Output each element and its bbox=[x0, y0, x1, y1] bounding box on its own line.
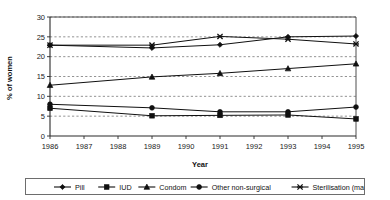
legend-items-svg: PillIUDCondomOther non-surgicalSterilisa… bbox=[26, 179, 364, 194]
legend-marker-other-non-surgical bbox=[197, 185, 202, 190]
x-tick-label-1986: 1986 bbox=[42, 142, 59, 151]
series-marker-other-non-surgical-1991 bbox=[218, 109, 223, 114]
series-line-pill bbox=[50, 36, 356, 48]
y-tick-label-0: 0 bbox=[41, 132, 45, 141]
legend-item-other-non-surgical[interactable]: Other non-surgical bbox=[191, 183, 272, 192]
series-marker-pill-1991 bbox=[217, 42, 222, 47]
legend-marker-pill bbox=[60, 184, 65, 189]
legend-item-condom[interactable]: Condom bbox=[138, 183, 186, 192]
legend-item-sterilisation-male-female[interactable]: Sterilisation (male/female) bbox=[292, 183, 364, 192]
x-tick-label-1989: 1989 bbox=[144, 142, 161, 151]
y-tick-label-25: 25 bbox=[37, 33, 45, 42]
legend-label-other-non-surgical: Other non-surgical bbox=[212, 183, 272, 192]
x-axis-title: Year bbox=[192, 160, 208, 169]
legend-entries: PillIUDCondomOther non-surgicalSterilisa… bbox=[54, 183, 364, 192]
y-tick-label-15: 15 bbox=[37, 72, 45, 81]
legend-item-pill[interactable]: Pill bbox=[54, 183, 85, 192]
series-marker-pill-1995 bbox=[353, 33, 358, 38]
y-tick-label-5: 5 bbox=[41, 112, 45, 121]
legend-label-pill: Pill bbox=[75, 183, 85, 192]
legend-label-iud: IUD bbox=[119, 183, 131, 192]
legend-label-condom: Condom bbox=[159, 183, 186, 192]
series-marker-other-non-surgical-1995 bbox=[354, 105, 359, 110]
series-marker-other-non-surgical-1993 bbox=[286, 109, 291, 114]
chart-legend: PillIUDCondomOther non-surgicalSterilisa… bbox=[25, 178, 365, 195]
series-line-sterilisation-male-female bbox=[50, 36, 356, 45]
chart-container: 302520151050 198619871988198919901991199… bbox=[0, 0, 390, 200]
series-marker-iud-1989 bbox=[150, 113, 155, 118]
series-line-condom bbox=[50, 64, 356, 85]
x-tick-label-1988: 1988 bbox=[110, 142, 127, 151]
x-tick-label-1994: 1994 bbox=[314, 142, 331, 151]
x-tick-label-1987: 1987 bbox=[76, 142, 93, 151]
x-tick-label-1990: 1990 bbox=[178, 142, 195, 151]
series-line-other-non-surgical bbox=[50, 104, 356, 112]
x-tick-label-1995: 1995 bbox=[348, 142, 365, 151]
x-tick-label-1992: 1992 bbox=[246, 142, 263, 151]
y-axis-title: % of women bbox=[5, 56, 14, 100]
y-tick-label-10: 10 bbox=[37, 92, 45, 101]
series-marker-other-non-surgical-1986 bbox=[48, 102, 53, 107]
x-tick-label-1991: 1991 bbox=[212, 142, 229, 151]
data-series-group bbox=[47, 33, 359, 121]
y-axis-ticks: 302520151050 bbox=[37, 13, 50, 141]
legend-marker-sterilisation-male-female bbox=[297, 184, 303, 189]
x-tick-label-1993: 1993 bbox=[280, 142, 297, 151]
y-tick-label-30: 30 bbox=[37, 13, 45, 22]
legend-label-sterilisation-male-female: Sterilisation (male/female) bbox=[313, 183, 364, 192]
legend-item-iud[interactable]: IUD bbox=[98, 183, 131, 192]
line-chart-plot: 302520151050 198619871988198919901991199… bbox=[0, 0, 390, 178]
legend-marker-iud bbox=[104, 185, 109, 190]
series-marker-other-non-surgical-1989 bbox=[150, 105, 155, 110]
y-tick-label-20: 20 bbox=[37, 52, 45, 61]
series-marker-iud-1995 bbox=[354, 117, 359, 122]
series-marker-sterilisation-male-female-1991 bbox=[217, 34, 223, 39]
x-axis-ticks: 1986198719881989199019911992199319941995 bbox=[42, 136, 365, 151]
